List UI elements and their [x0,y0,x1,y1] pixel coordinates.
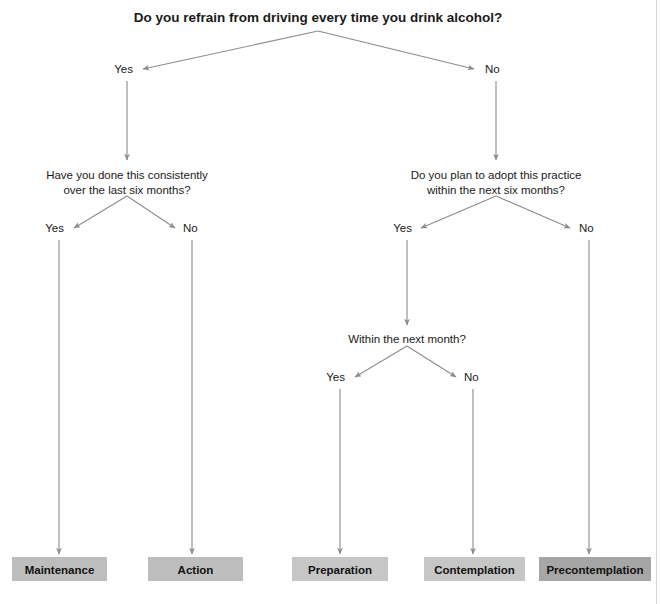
flowchart-canvas: Do you refrain from driving every time y… [0,0,660,604]
month-question-line-1: Within the next month? [348,333,466,345]
outcome-node-precontemplation[interactable]: Precontemplation [539,557,651,581]
question-node-left: Have you done this consistently over the… [46,169,208,196]
branch-label-root-yes: Yes [114,63,133,75]
branch-label-right-yes: Yes [393,222,412,234]
outcome-label-precontemplation: Precontemplation [546,564,643,576]
decision-tree-diagram: Do you refrain from driving every time y… [0,0,660,604]
branch-label-left-yes: Yes [45,222,64,234]
outcome-label-maintenance: Maintenance [25,564,95,576]
connector-root-to-no [318,31,474,69]
connector-root-to-yes [143,31,318,69]
branch-label-month-no: No [464,371,479,383]
outcome-label-preparation: Preparation [308,564,372,576]
connector-right-to-yes [421,196,496,228]
connector-left-to-yes [74,196,127,228]
right-question-line-1: Do you plan to adopt this practice [411,169,582,181]
left-question-line-1: Have you done this consistently [46,169,208,181]
page-title: Do you refrain from driving every time y… [134,10,502,25]
outcome-node-contemplation[interactable]: Contemplation [424,557,525,581]
root-branch-connectors [127,31,496,160]
branch-label-month-yes: Yes [326,371,345,383]
left-branch-connectors [59,196,192,554]
question-node-right: Do you plan to adopt this practice withi… [411,169,582,196]
outcome-label-contemplation: Contemplation [434,564,515,576]
right-question-line-2: within the next six months? [426,184,565,196]
outcome-label-action: Action [178,564,214,576]
outcome-node-preparation[interactable]: Preparation [292,557,388,581]
connector-month-to-yes [355,346,407,377]
right-branch-connectors [407,196,589,554]
branch-label-left-no: No [183,222,198,234]
outcome-node-maintenance[interactable]: Maintenance [12,557,107,581]
connector-right-to-no [496,196,570,228]
branch-label-root-no: No [485,63,500,75]
connector-month-to-no [407,346,456,377]
outcome-node-action[interactable]: Action [148,557,243,581]
month-branch-connectors [340,346,473,554]
connector-left-to-no [127,196,175,228]
left-question-line-2: over the last six months? [63,184,190,196]
branch-label-right-no: No [579,222,594,234]
question-node-month: Within the next month? [348,333,466,345]
